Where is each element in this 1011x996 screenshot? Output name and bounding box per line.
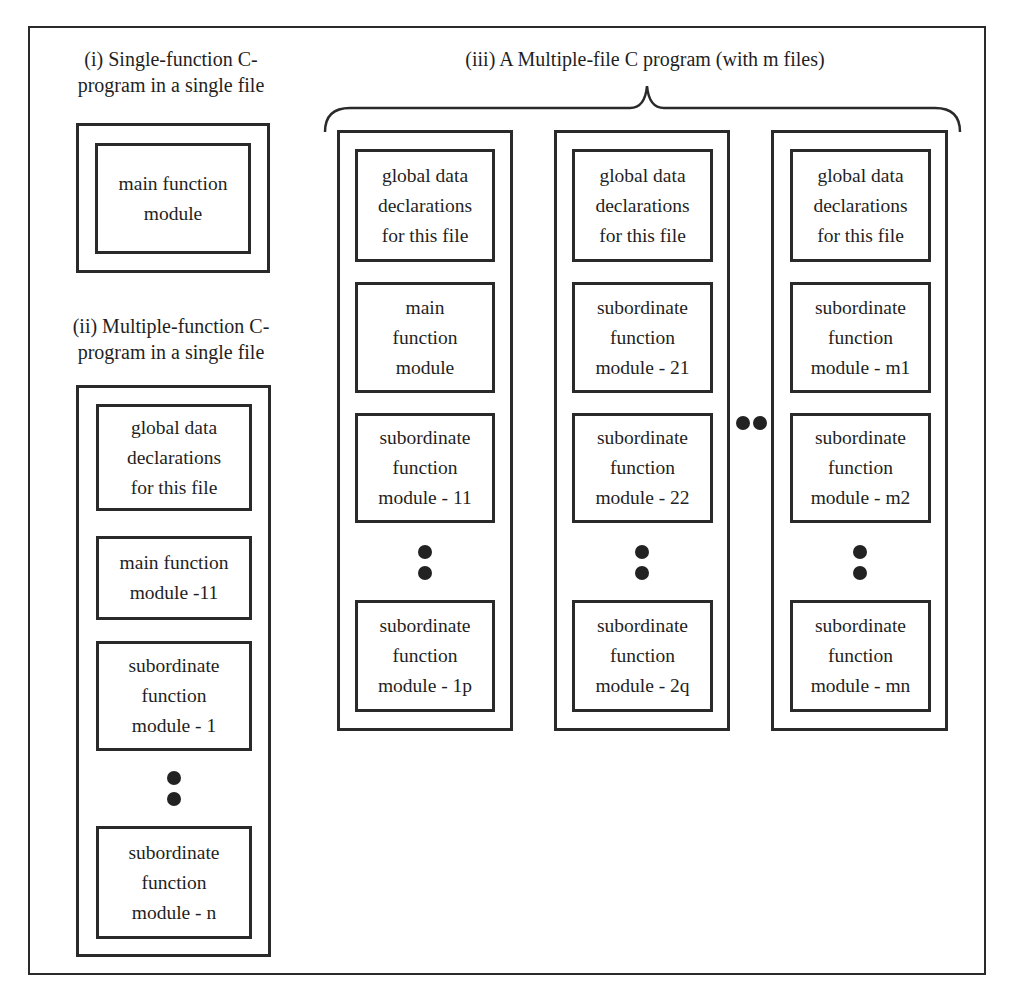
section-ii-global-data-module: global data declarations for this file: [96, 404, 252, 511]
ellipsis-dot-icon: [736, 416, 750, 430]
ellipsis-dot-icon: [853, 545, 867, 559]
ellipsis-dot-icon: [167, 771, 181, 785]
section-ii-subordinate-module-n: subordinate function module - n: [96, 826, 252, 939]
ellipsis-dot-icon: [418, 566, 432, 580]
ellipsis-dot-icon: [753, 416, 767, 430]
file-m-subordinate-module-mn: subordinate function module - mn: [790, 600, 931, 712]
section-i-caption: (i) Single-function C- program in a sing…: [40, 46, 302, 98]
curly-brace-icon: [320, 80, 970, 136]
section-i-main-module: main function module: [95, 143, 251, 254]
file-1-subordinate-module-11: subordinate function module - 11: [355, 413, 495, 523]
section-iii-caption: (iii) A Multiple-file C program (with m …: [330, 46, 960, 72]
file-1-main-module: main function module: [355, 282, 495, 393]
section-ii-subordinate-module-1: subordinate function module - 1: [96, 641, 252, 751]
file-2-subordinate-module-22: subordinate function module - 22: [572, 413, 713, 523]
file-m-subordinate-module-m1: subordinate function module - m1: [790, 282, 931, 393]
file-2-global-data-module: global data declarations for this file: [572, 149, 713, 262]
file-2-subordinate-module-21: subordinate function module - 21: [572, 282, 713, 393]
section-ii-caption: (ii) Multiple-function C- program in a s…: [40, 313, 302, 365]
ellipsis-dot-icon: [167, 792, 181, 806]
file-m-subordinate-module-m2: subordinate function module - m2: [790, 413, 931, 523]
ellipsis-dot-icon: [635, 545, 649, 559]
ellipsis-dot-icon: [418, 545, 432, 559]
ellipsis-dot-icon: [853, 566, 867, 580]
file-1-global-data-module: global data declarations for this file: [355, 149, 495, 262]
file-m-global-data-module: global data declarations for this file: [790, 149, 931, 262]
ellipsis-dot-icon: [635, 566, 649, 580]
file-2-subordinate-module-2q: subordinate function module - 2q: [572, 600, 713, 712]
file-1-subordinate-module-1p: subordinate function module - 1p: [355, 600, 495, 712]
section-ii-main-module: main function module -11: [96, 536, 252, 620]
